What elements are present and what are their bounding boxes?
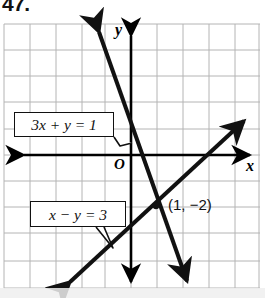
intersection-point-label: (1, −2) [168,197,212,212]
callout-equation-1: 3x + y = 1 [14,112,114,137]
y-axis-label: y [115,22,122,38]
page-edge-band [0,288,265,298]
graph-figure: 47. [0,0,265,298]
intersection-point-marker [153,203,159,209]
origin-label: O [114,157,125,172]
x-axis-label: x [246,158,254,174]
callout-equation-2: x − y = 3 [30,201,126,227]
coordinate-plane-graphic [0,0,265,298]
